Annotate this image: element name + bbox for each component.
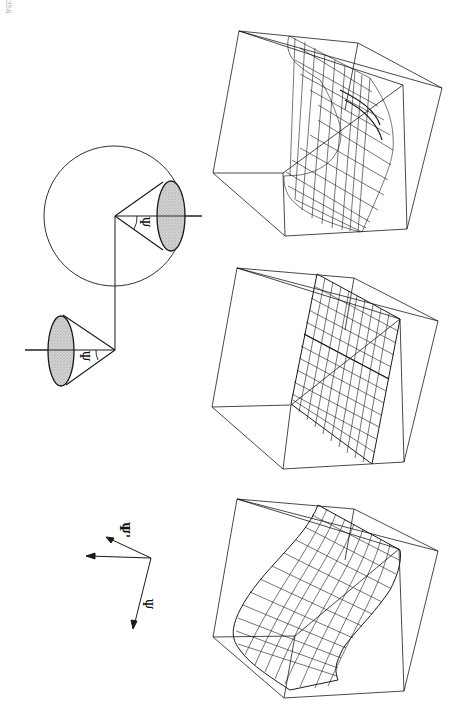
wireframe-surface-curved	[233, 505, 400, 690]
wireframe-surface-planar	[291, 274, 400, 464]
cone-diagram	[25, 146, 202, 386]
axes-diagram	[86, 537, 151, 629]
surface-panel-planar	[212, 268, 438, 469]
surface-panel-curved	[213, 499, 438, 698]
axis-label-primary: Ψ	[140, 598, 155, 609]
wireframe-surface-distorted	[284, 36, 393, 232]
lower-cone-label: Ψ	[77, 350, 92, 361]
upper-cone-label: Ψ	[137, 216, 152, 227]
axis-label-secondary: Ψ'	[117, 522, 132, 538]
figure: Ψ Ψ Ψ' Ψ	[0, 0, 461, 718]
lower-cone-base	[48, 316, 74, 386]
surface-panel-distorted	[213, 31, 442, 236]
